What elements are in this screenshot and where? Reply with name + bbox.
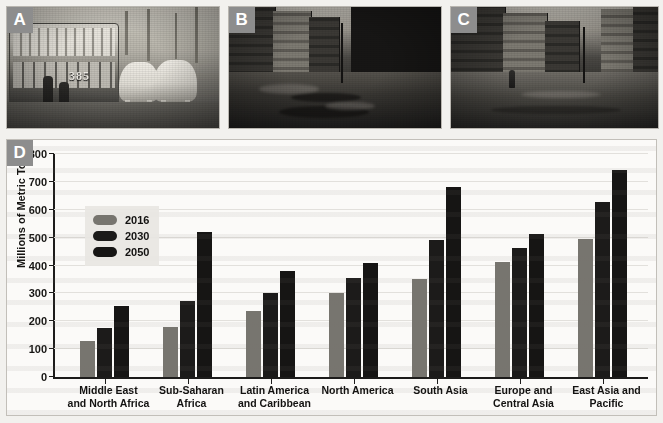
category-label-line: East Asia and bbox=[565, 384, 648, 397]
category-label-line: Sub-Saharan bbox=[150, 384, 233, 397]
bar-2050 bbox=[529, 234, 544, 377]
bar-2016 bbox=[578, 239, 593, 377]
legend-item-2050[interactable]: 2050 bbox=[93, 244, 149, 260]
tree-trunk-icon bbox=[125, 11, 128, 55]
tree-trunk-icon bbox=[175, 13, 177, 59]
bar-2030 bbox=[180, 301, 195, 377]
y-tick-label: 700 bbox=[29, 176, 47, 188]
horse-right bbox=[153, 60, 197, 102]
category-label-line: and Caribbean bbox=[233, 397, 316, 410]
category-label-line: South Asia bbox=[399, 384, 482, 397]
figure-container: 385 A bbox=[0, 0, 663, 423]
bar-2030 bbox=[97, 328, 112, 377]
category-label-line: Latin America bbox=[233, 384, 316, 397]
bar-2016 bbox=[80, 341, 95, 377]
y-tick-label: 200 bbox=[29, 315, 47, 327]
category-label: Sub-SaharanAfrica bbox=[150, 384, 233, 410]
road-rut bbox=[491, 106, 621, 114]
bar-2016 bbox=[246, 311, 261, 377]
bar-2016 bbox=[329, 293, 344, 377]
y-tick-label: 400 bbox=[29, 260, 47, 272]
y-tick-mark bbox=[49, 181, 54, 182]
utility-pole bbox=[583, 27, 585, 83]
building-facade bbox=[545, 21, 580, 79]
y-tick-mark bbox=[49, 376, 54, 377]
bar-2016 bbox=[163, 327, 178, 377]
y-tick-label: 300 bbox=[29, 287, 47, 299]
category-label: Latin Americaand Caribbean bbox=[233, 384, 316, 410]
plot-area: 0100200300400500600700800 bbox=[53, 154, 648, 379]
bar-2050 bbox=[280, 271, 295, 377]
category-label: Middle Eastand North Africa bbox=[67, 384, 150, 410]
category-label: Europe andCentral Asia bbox=[482, 384, 565, 410]
y-tick-mark bbox=[49, 320, 54, 321]
y-tick-mark bbox=[49, 292, 54, 293]
road-rut bbox=[291, 93, 361, 102]
legend-item-2030[interactable]: 2030 bbox=[93, 228, 149, 244]
legend-label-2016: 2016 bbox=[125, 214, 149, 226]
category-label: East Asia andPacific bbox=[565, 384, 648, 410]
paved-road bbox=[451, 72, 658, 128]
legend-item-2016[interactable]: 2016 bbox=[93, 212, 149, 228]
tram-number-label: 385 bbox=[69, 69, 90, 84]
road-mud-patch bbox=[259, 84, 319, 94]
bar-2030 bbox=[595, 202, 610, 377]
bar-2030 bbox=[346, 278, 361, 377]
category-label-line: and North Africa bbox=[67, 397, 150, 410]
y-tick-label: 500 bbox=[29, 232, 47, 244]
panel-tag-c: C bbox=[451, 7, 477, 33]
category-label-line: North America bbox=[316, 384, 399, 397]
bar-2016 bbox=[495, 262, 510, 377]
bar-2030 bbox=[512, 248, 527, 377]
y-tick-mark bbox=[49, 237, 54, 238]
photo-panel-b: B bbox=[228, 6, 442, 129]
category-label-line: Middle East bbox=[67, 384, 150, 397]
utility-pole bbox=[341, 23, 343, 83]
category-label-line: Central Asia bbox=[482, 397, 565, 410]
category-label-line: Pacific bbox=[565, 397, 648, 410]
category-label-line: Africa bbox=[150, 397, 233, 410]
chart-legend: 201620302050 bbox=[85, 206, 159, 266]
road-wet-patch bbox=[521, 91, 601, 98]
y-tick-mark bbox=[49, 153, 54, 154]
bar-2050 bbox=[612, 170, 627, 377]
panel-tag-d: D bbox=[7, 140, 33, 166]
street-ground bbox=[7, 102, 219, 128]
gridline bbox=[53, 153, 648, 154]
category-label: South Asia bbox=[399, 384, 482, 397]
x-axis-line bbox=[53, 377, 648, 379]
person-figure bbox=[509, 70, 515, 88]
legend-label-2030: 2030 bbox=[125, 230, 149, 242]
gridline bbox=[53, 181, 648, 182]
photo-panel-c: C bbox=[450, 6, 659, 129]
y-tick-mark bbox=[49, 265, 54, 266]
photo-row: 385 A bbox=[0, 0, 663, 133]
category-label: North America bbox=[316, 384, 399, 397]
bar-2030 bbox=[429, 240, 444, 377]
bar-2050 bbox=[446, 187, 461, 377]
legend-swatch-2030 bbox=[93, 231, 117, 241]
road-mud-patch bbox=[325, 102, 375, 110]
y-tick-mark bbox=[49, 348, 54, 349]
y-tick-label: 600 bbox=[29, 204, 47, 216]
y-axis-title: Millions of Metric Tons bbox=[15, 150, 27, 268]
panel-tag-b: B bbox=[229, 7, 255, 33]
legend-swatch-2016 bbox=[93, 215, 117, 225]
tree-trunk-icon bbox=[147, 9, 150, 61]
bar-2030 bbox=[263, 293, 278, 377]
bar-2050 bbox=[197, 232, 212, 378]
bar-2050 bbox=[363, 263, 378, 377]
category-label-line: Europe and bbox=[482, 384, 565, 397]
y-axis-line bbox=[53, 154, 55, 379]
chart-panel-d: Millions of Metric Tons 0100200300400500… bbox=[6, 139, 657, 416]
bar-2050 bbox=[114, 306, 129, 377]
legend-swatch-2050 bbox=[93, 247, 117, 257]
photo-panel-a: 385 A bbox=[6, 6, 220, 129]
tree-trunk-icon bbox=[195, 7, 198, 63]
legend-label-2050: 2050 bbox=[125, 246, 149, 258]
bar-2016 bbox=[412, 279, 427, 377]
panel-tag-a: A bbox=[7, 7, 33, 33]
y-tick-label: 0 bbox=[41, 371, 47, 383]
y-tick-label: 100 bbox=[29, 343, 47, 355]
y-tick-mark bbox=[49, 209, 54, 210]
